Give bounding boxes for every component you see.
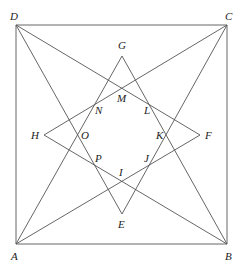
square-abcd <box>16 25 227 244</box>
label-e: E <box>117 218 125 230</box>
star-segments <box>16 25 227 244</box>
segment-af <box>16 135 200 244</box>
label-n: N <box>94 104 103 116</box>
segment-de <box>16 25 122 214</box>
square-outline <box>16 25 227 244</box>
segment-ch <box>44 25 227 135</box>
label-l: L <box>143 104 150 116</box>
label-i: I <box>118 166 124 178</box>
geometry-diagram: DCABGEHFMNLOKPJI <box>0 0 244 275</box>
label-p: P <box>94 152 102 164</box>
label-j: J <box>144 152 150 164</box>
label-b: B <box>225 250 232 262</box>
point-labels: DCABGEHFMNLOKPJI <box>9 10 233 262</box>
label-d: D <box>9 10 18 22</box>
label-a: A <box>10 250 18 262</box>
label-h: H <box>30 129 40 141</box>
label-m: M <box>116 92 127 104</box>
label-o: O <box>81 129 89 141</box>
label-c: C <box>225 10 233 22</box>
label-f: F <box>204 129 212 141</box>
label-g: G <box>118 39 126 51</box>
label-k: K <box>155 129 164 141</box>
segment-df <box>16 25 200 135</box>
